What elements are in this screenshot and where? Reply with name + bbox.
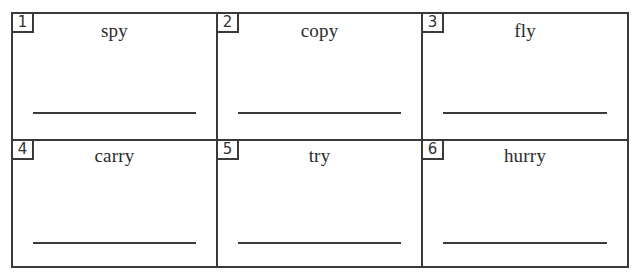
prompt-word: try xyxy=(218,145,421,167)
answer-line[interactable] xyxy=(238,112,401,114)
prompt-word: spy xyxy=(13,20,216,42)
word-worksheet-grid: 1 spy 2 copy 3 fly 4 carry 5 try 6 hurry xyxy=(11,12,629,268)
answer-line[interactable] xyxy=(33,242,196,244)
prompt-word: carry xyxy=(13,145,216,167)
answer-line[interactable] xyxy=(33,112,196,114)
answer-line[interactable] xyxy=(443,242,607,244)
worksheet-cell-4: 4 carry xyxy=(13,141,218,266)
worksheet-cell-5: 5 try xyxy=(218,141,423,266)
worksheet-cell-3: 3 fly xyxy=(423,14,627,141)
worksheet-cell-6: 6 hurry xyxy=(423,141,627,266)
answer-line[interactable] xyxy=(443,112,607,114)
answer-line[interactable] xyxy=(238,242,401,244)
prompt-word: hurry xyxy=(423,145,627,167)
worksheet-cell-1: 1 spy xyxy=(13,14,218,141)
prompt-word: copy xyxy=(218,20,421,42)
worksheet-cell-2: 2 copy xyxy=(218,14,423,141)
prompt-word: fly xyxy=(423,20,627,42)
